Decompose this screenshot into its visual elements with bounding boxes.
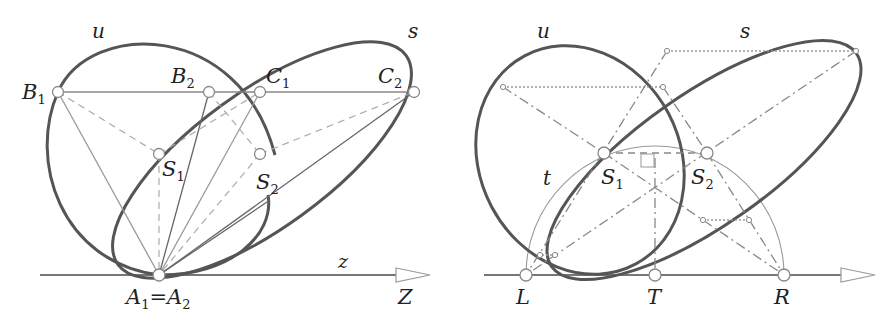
point-s2-right [701,147,713,159]
point-l [520,269,532,281]
label-s: s [408,19,418,43]
label-u-right: u [537,19,550,43]
label-s-right: s [740,19,750,43]
label-u: u [92,19,105,43]
dash-p4-l [526,51,856,275]
point-mid-u [500,84,505,89]
dash-b1-s1 [58,92,159,154]
axis-arrow-right-icon [841,268,875,282]
line-a-b1 [58,92,159,275]
diagram-canvas: u s B1 B2 C1 C2 S1 S2 A1=A2 z Z [0,0,896,322]
axis-arrow-icon [396,268,430,282]
label-b2: B2 [170,64,195,91]
label-c1: C1 [266,64,290,91]
label-b1: B1 [21,80,46,107]
label-s1: S1 [162,157,185,184]
label-r: R [773,285,790,309]
label-s1-right: S1 [601,165,624,192]
label-t-right: t [543,166,552,190]
label-a1-eq-a2: A1=A2 [124,285,191,312]
line-a-c2 [159,92,414,275]
left-panel: u s B1 B2 C1 C2 S1 S2 A1=A2 z Z [21,0,446,319]
dash-p1-s1 [503,87,604,153]
point-low-u [700,217,705,222]
curve-u-right [436,9,723,311]
label-s2-right: S2 [691,165,714,192]
point-b1 [53,87,64,98]
point-top-s [853,48,858,53]
dash-s2-c2 [260,92,414,154]
point-c2 [409,87,420,98]
point-r [778,269,790,281]
point-c1 [255,87,266,98]
point-s2 [255,149,266,160]
label-c2: C2 [378,64,402,91]
label-t: T [647,285,663,309]
point-tiny-2 [552,252,557,257]
right-panel: u s t S1 S2 L T R [436,0,894,321]
curve-s [78,0,446,319]
dash-s1-c1 [159,92,260,154]
point-top-u [664,48,669,53]
label-l: L [515,285,530,309]
point-s1-right [598,147,610,159]
point-t [649,269,661,281]
label-axis-Z: Z [397,285,413,309]
label-axis-z: z [337,250,349,272]
point-mid-s [660,84,665,89]
point-tiny-1 [537,252,542,257]
dash-p2-s2 [663,87,707,153]
right-angle-icon [641,154,654,167]
point-a [153,269,165,281]
point-low-s [746,217,751,222]
point-b2 [204,87,215,98]
dash-s2-r [707,153,784,275]
label-s2: S2 [256,170,279,197]
